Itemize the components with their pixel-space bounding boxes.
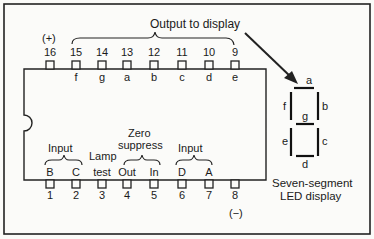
pin-pad: [150, 61, 158, 69]
pin-name: b: [151, 71, 157, 83]
seg-label-g: g: [302, 110, 308, 122]
input-left-brace: [45, 155, 82, 165]
pin-number: 4: [124, 189, 130, 201]
pin-pad: [123, 180, 131, 188]
pin-number: 7: [206, 189, 212, 201]
pin-pad: [72, 180, 80, 188]
pin-number: 1: [47, 189, 53, 201]
pin-pad: [72, 61, 80, 69]
top-pin-12: 12b: [148, 46, 160, 83]
pin-pad: [178, 61, 186, 69]
bottom-pin-1: 1B: [46, 166, 54, 201]
pin-name: c: [179, 71, 185, 83]
pin-number: 15: [70, 46, 82, 58]
output-brace: [72, 32, 234, 45]
top-pin-13: 13a: [121, 46, 133, 83]
suppress-label: suppress: [118, 139, 163, 151]
power-label: (+): [42, 32, 56, 44]
pin-number: 3: [99, 189, 105, 201]
ic-chip-body: [24, 69, 266, 180]
pin-number: 13: [121, 46, 133, 58]
seg-label-e: e: [282, 135, 288, 147]
pin-pad: [231, 180, 239, 188]
bottom-pin-8: 8: [231, 180, 239, 201]
pin-name: A: [205, 166, 213, 178]
pin-pad: [46, 61, 54, 69]
seg-label-b: b: [322, 100, 328, 112]
top-pin-15: 15f: [70, 46, 82, 83]
pin-number: 12: [148, 46, 160, 58]
input-left-label: Input: [48, 142, 72, 154]
output-to-display-label: Output to display: [150, 17, 240, 31]
pin-pad: [98, 61, 106, 69]
pin-name: C: [72, 166, 80, 178]
pin-number: 2: [73, 189, 79, 201]
pin-pad: [205, 61, 213, 69]
bottom-pin-7: 7A: [205, 166, 213, 201]
pin-name: Out: [118, 166, 136, 178]
pin-name: B: [46, 166, 53, 178]
zero-suppress-brace: [124, 155, 160, 165]
pin-pad: [123, 61, 131, 69]
seg-label-f: f: [283, 100, 287, 112]
pin-name: test: [93, 166, 111, 178]
pin-name: d: [206, 71, 212, 83]
pin-pad: [231, 61, 239, 69]
top-pin-16: 16: [44, 46, 56, 69]
pin-pad: [98, 180, 106, 188]
bottom-pin-4: 4Out: [118, 166, 136, 201]
display-caption-2: LED display: [280, 190, 342, 202]
pin-name: e: [232, 71, 238, 83]
pin-pad: [205, 180, 213, 188]
lamp-label: Lamp: [89, 150, 117, 162]
pin-name: g: [99, 71, 105, 83]
pin-pad: [178, 180, 186, 188]
pin-number: 10: [203, 46, 215, 58]
arrow-line: [245, 33, 292, 78]
bottom-pin-6: 6D: [178, 166, 186, 201]
pin-pad: [150, 180, 158, 188]
pin-pad: [46, 180, 54, 188]
top-pin-10: 10d: [203, 46, 215, 83]
bottom-pin-2: 2C: [72, 166, 80, 201]
zero-label: Zero: [128, 127, 151, 139]
pin-name: a: [124, 71, 131, 83]
input-right-brace: [176, 155, 212, 165]
pin-number: 9: [232, 46, 238, 58]
input-right-label: Input: [178, 142, 202, 154]
pin-name: In: [149, 166, 158, 178]
display-caption-1: Seven-segment: [272, 177, 353, 189]
pin-number: 6: [179, 189, 185, 201]
ground-label: (−): [229, 207, 243, 219]
pin-number: 11: [176, 46, 187, 58]
pin-name: D: [178, 166, 186, 178]
top-pin-14: 14g: [96, 46, 108, 83]
pin-number: 14: [96, 46, 108, 58]
pin-name: f: [74, 71, 78, 83]
pin-number: 16: [44, 46, 56, 58]
seg-label-c: c: [322, 135, 328, 147]
pin-number: 5: [151, 189, 157, 201]
bottom-pin-3: 3test: [93, 166, 111, 201]
top-pin-11: 11c: [176, 46, 187, 83]
seven-segment-display: [291, 88, 318, 156]
pin-number: 8: [232, 189, 238, 201]
ic-pinout-diagram: Output to display (+) 1615f14g13a12b11c1…: [0, 0, 374, 239]
seg-label-a: a: [306, 74, 313, 86]
top-pin-9: 9e: [231, 46, 239, 83]
bottom-pin-5: 5In: [149, 166, 158, 201]
seg-label-d: d: [302, 158, 308, 170]
